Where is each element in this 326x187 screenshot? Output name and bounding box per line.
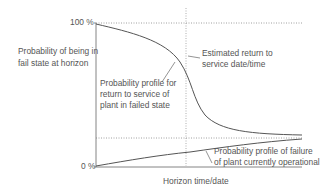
estimated-return-label-line2: service date/time <box>202 59 265 70</box>
operational-profile-label-line1: Probability profile of failure <box>214 146 313 157</box>
y-tick-label-0: 0 % <box>81 161 95 172</box>
y-axis-title-line2: fail state at horizon <box>18 58 88 69</box>
operational-profile-label-line2: of plant currently operational <box>214 157 320 168</box>
x-axis-title: Horizon time/date <box>163 176 229 187</box>
y-tick-label-100: 100 % <box>70 17 94 28</box>
pointer-operational <box>206 151 212 163</box>
failed-profile-label-line1: Probability profile for <box>100 78 176 89</box>
failed-profile-label-line2: return to service of <box>100 89 169 100</box>
failed-profile-label-line3: plant in failed state <box>100 100 170 111</box>
y-axis-title-line1: Probability of being in <box>18 46 98 57</box>
estimated-return-label-line1: Estimated return to <box>202 48 273 59</box>
pointer-estimated <box>188 56 200 58</box>
